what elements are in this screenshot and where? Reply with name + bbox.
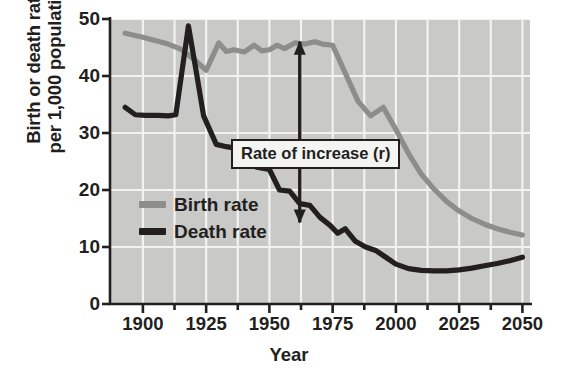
legend-item-birth-rate: Birth rate bbox=[139, 192, 267, 217]
y-tick-label: 0 bbox=[56, 294, 100, 313]
y-tick-label: 30 bbox=[56, 123, 100, 142]
y-tick-label: 20 bbox=[56, 180, 100, 199]
y-axis-tick-labels: 50 40 30 20 10 0 bbox=[56, 0, 100, 320]
legend-swatch-death-rate bbox=[139, 228, 166, 235]
legend-label-death-rate: Death rate bbox=[174, 222, 267, 241]
legend-label-birth-rate: Birth rate bbox=[174, 195, 258, 214]
legend-item-death-rate: Death rate bbox=[139, 219, 267, 244]
legend-swatch-birth-rate bbox=[139, 201, 166, 208]
y-tick-label: 10 bbox=[56, 237, 100, 256]
x-axis-title: Year bbox=[0, 344, 578, 366]
chart-figure: Birth or death rate per 1,000 population… bbox=[0, 0, 578, 368]
chart-legend: Birth rate Death rate bbox=[139, 192, 267, 244]
y-tick-label: 50 bbox=[56, 9, 100, 28]
x-tick-label: 2050 bbox=[482, 313, 562, 335]
rate-of-increase-label: Rate of increase (r) bbox=[231, 139, 400, 169]
y-tick-label: 40 bbox=[56, 66, 100, 85]
